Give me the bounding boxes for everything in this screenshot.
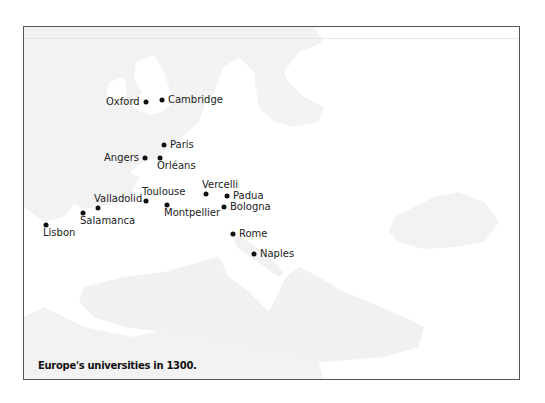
city-label: Angers [104,153,139,163]
map-caption: Europe's universities in 1300. [38,360,197,371]
city-dot-vercelli [204,192,209,197]
city-dot-toulouse [144,199,149,204]
city-dot-angers [143,156,148,161]
city-label: Orléans [157,161,196,171]
city-dot-padua [225,194,230,199]
city-dot-bologna [222,205,227,210]
city-dot-valladolid [96,206,101,211]
city-label: Naples [260,249,294,259]
city-dot-rome [231,232,236,237]
city-label: Salamanca [80,216,135,226]
city-dot-naples [252,252,257,257]
city-label: Padua [233,191,264,201]
city-dot-cambridge [160,98,165,103]
top-rule [24,38,520,39]
city-label: Paris [170,140,194,150]
city-label: Lisbon [43,228,75,238]
city-label: Rome [239,229,268,239]
city-label: Valladolid [94,194,142,204]
city-label: Montpellier [164,208,220,218]
city-label: Bologna [230,202,271,212]
city-label: Vercelli [202,180,238,190]
city-dot-oxford [144,100,149,105]
city-dot-paris [162,143,167,148]
city-label: Toulouse [142,187,185,197]
city-label: Cambridge [168,95,223,105]
city-label: Oxford [106,97,140,107]
map-frame: OxfordCambridgeParisAngersOrléansToulous… [23,26,520,380]
